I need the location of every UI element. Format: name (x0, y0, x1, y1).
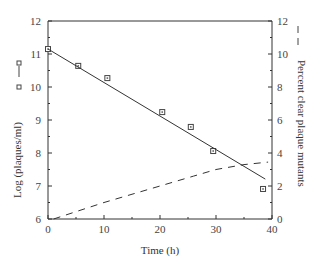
y-tick-label: 7 (36, 180, 42, 192)
y-tick-label: 10 (30, 81, 42, 93)
y2-tick-label: 0 (277, 213, 283, 225)
x-tick-label: 30 (211, 223, 223, 235)
series-layer (46, 47, 269, 219)
x-tick-label: 0 (45, 223, 51, 235)
y-tick-label: 6 (36, 213, 42, 225)
y-tick-label: 9 (36, 114, 42, 126)
y2-tick-label: 6 (277, 114, 283, 126)
left-legend-marker (17, 61, 21, 89)
mutant-percent-line (54, 162, 269, 219)
x-tick-label: 10 (99, 223, 111, 235)
x-axis-title: Time (h) (141, 244, 180, 257)
y2-tick-label: 4 (277, 147, 283, 159)
chart: 0102030406789101112024681012 Time (h) Lo… (0, 0, 316, 266)
y2-axis-title: Percent clear plaque mutants (296, 60, 308, 187)
y-tick-label: 12 (30, 15, 41, 27)
regression-line (48, 49, 265, 179)
y-tick-label: 11 (30, 48, 41, 60)
y-tick-label: 8 (36, 147, 42, 159)
plot-frame (48, 21, 272, 219)
axis-ticks (48, 21, 272, 219)
y2-tick-label: 10 (277, 48, 289, 60)
tick-labels: 0102030406789101112024681012 (30, 15, 289, 235)
square-marker-icon (17, 61, 21, 65)
y-axis-title: Log (plaques/ml) (11, 122, 24, 198)
y2-tick-label: 8 (277, 81, 283, 93)
square-marker-icon (17, 85, 21, 89)
y2-tick-label: 12 (277, 15, 288, 27)
x-tick-label: 20 (155, 223, 167, 235)
y2-tick-label: 2 (277, 180, 283, 192)
